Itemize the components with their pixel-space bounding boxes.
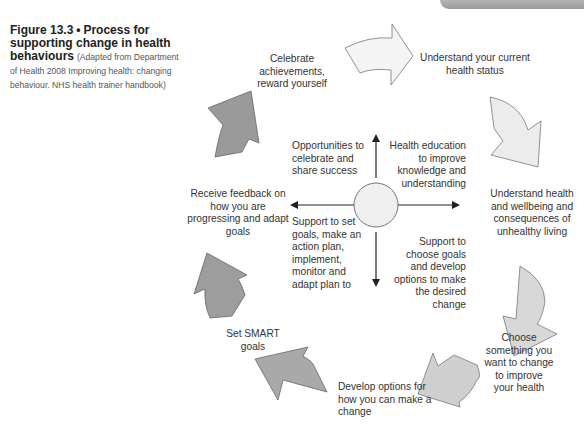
step-label-6: Receive feedback on how you are progress… [186, 188, 290, 238]
quadrant-top-left: Opportunities to celebrate and share suc… [292, 140, 372, 178]
step-label-3: Choose something you want to change to i… [484, 332, 554, 395]
quadrant-top-right: Health education to improve knowledge an… [384, 140, 466, 190]
cycle-arrow-1-icon [345, 24, 413, 85]
cycle-arrow-2-icon [490, 97, 541, 167]
step-label-4: Develop options for how you can make a c… [338, 381, 438, 419]
cycle-arrow-7-icon [208, 91, 259, 157]
step-label-7: Celebrate achievements, reward yourself [252, 53, 332, 91]
step-label-1: Understand your current health status [420, 52, 530, 77]
quadrant-bottom-right: Support to choose goals and develop opti… [388, 236, 466, 312]
step-label-5: Set SMART goals [218, 328, 288, 353]
step-label-2: Understand health and wellbeing and cons… [482, 188, 582, 238]
quadrant-bottom-left: Support to set goals, make an action pla… [292, 216, 368, 292]
cycle-arrow-5-icon [255, 347, 327, 400]
cycle-arrow-6-icon [194, 253, 247, 318]
